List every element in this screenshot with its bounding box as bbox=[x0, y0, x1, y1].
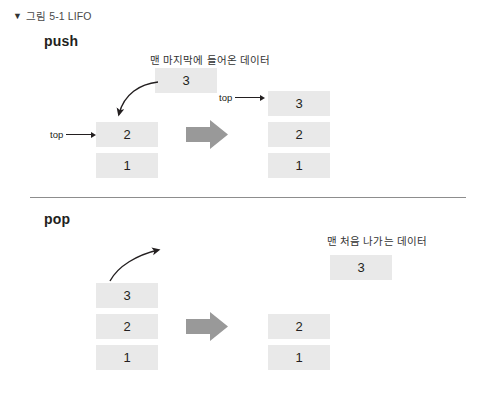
push-right-stack-item-2: 1 bbox=[268, 153, 330, 178]
pop-right-stack-item-1: 1 bbox=[268, 345, 330, 370]
push-right-top-pointer: top bbox=[219, 92, 265, 103]
push-transition-arrow-icon bbox=[186, 120, 228, 149]
pop-right-stack-item-0: 2 bbox=[268, 314, 330, 339]
pop-annotation-label: 맨 처음 나가는 데이터 bbox=[327, 233, 427, 248]
push-right-stack-item-1: 2 bbox=[268, 122, 330, 147]
push-right-top-label: top bbox=[219, 92, 232, 103]
push-left-stack-item-0: 2 bbox=[96, 122, 158, 147]
push-incoming-box: 3 bbox=[155, 68, 217, 93]
pop-outgoing-box: 3 bbox=[330, 255, 392, 280]
push-left-top-label: top bbox=[50, 129, 63, 140]
pop-left-stack-item-2: 1 bbox=[96, 345, 158, 370]
pop-section-title: pop bbox=[44, 211, 70, 227]
push-curved-arrow-icon bbox=[119, 82, 158, 114]
pointer-line bbox=[235, 97, 261, 98]
pop-curved-arrow-icon bbox=[110, 250, 158, 281]
pop-transition-arrow-icon bbox=[186, 312, 228, 341]
pop-left-stack-item-0: 3 bbox=[96, 283, 158, 308]
pop-left-stack-item-1: 2 bbox=[96, 314, 158, 339]
push-left-stack-item-1: 1 bbox=[96, 153, 158, 178]
push-left-top-pointer: top bbox=[50, 129, 96, 140]
arrow-head-icon bbox=[260, 95, 265, 101]
chevron-down-icon[interactable]: ▼ bbox=[13, 12, 22, 21]
push-section-title: push bbox=[44, 33, 78, 49]
push-right-stack-item-0: 3 bbox=[268, 91, 330, 116]
figure-caption-label: 그림 5-1 LIFO bbox=[26, 8, 91, 23]
section-divider bbox=[30, 197, 466, 198]
pointer-line bbox=[66, 134, 92, 135]
figure-container: ▼ 그림 5-1 LIFO push 맨 마지막에 들어온 데이터 3 top … bbox=[0, 0, 490, 397]
push-annotation-label: 맨 마지막에 들어온 데이터 bbox=[150, 52, 270, 67]
figure-caption[interactable]: ▼ 그림 5-1 LIFO bbox=[13, 8, 91, 23]
